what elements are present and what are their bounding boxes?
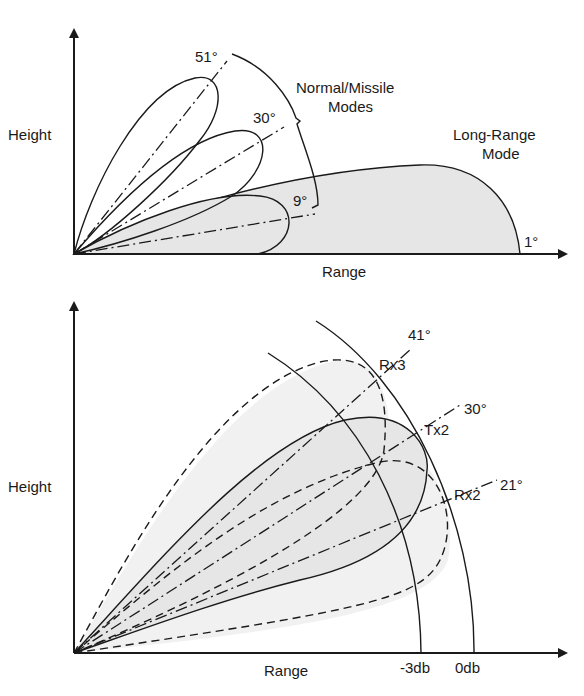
beam-9-label: 9° (293, 192, 307, 209)
bottom-diagram: Height Range -3db 0db Rx3 41° Tx2 30° Rx… (8, 303, 566, 679)
tx2-label: Tx2 (424, 421, 449, 438)
beam-1-label: 1° (524, 233, 538, 250)
rx3-label: Rx3 (379, 356, 406, 373)
bottom-y-axis-label: Height (8, 478, 52, 495)
normal-missile-label-1: Normal/Missile (296, 79, 394, 96)
long-range-label-1: Long-Range (453, 126, 536, 143)
top-diagram: Height Range 51° 30° 9° 1° Normal/Missil… (8, 30, 566, 280)
long-range-label-2: Mode (482, 145, 520, 162)
arc-minus-3db-label: -3db (400, 659, 430, 676)
beam-51-label: 51° (195, 48, 218, 65)
tx2-angle-label: 30° (464, 400, 487, 417)
top-y-axis-label: Height (8, 126, 52, 143)
beam-9-lobe (74, 195, 289, 254)
bottom-x-axis-label: Range (264, 662, 308, 679)
rx3-angle-label: 41° (408, 326, 431, 343)
top-x-axis-label: Range (322, 263, 366, 280)
beam-30-label: 30° (253, 109, 276, 126)
radar-beam-diagram: Height Range 51° 30° 9° 1° Normal/Missil… (0, 0, 584, 696)
rx2-angle-label: 21° (500, 476, 523, 493)
normal-missile-label-2: Modes (328, 98, 373, 115)
rx2-label: Rx2 (454, 486, 481, 503)
arc-0db-label: 0db (455, 659, 480, 676)
